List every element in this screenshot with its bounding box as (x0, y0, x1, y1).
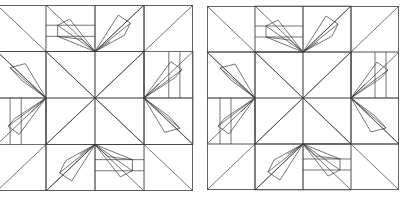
pinwheel-center-star (46, 52, 144, 145)
figure-root (0, 0, 413, 204)
pinwheel-center-star (255, 52, 351, 144)
panel-right (207, 5, 399, 191)
panel-right-drawing (207, 5, 399, 191)
panel-left (0, 5, 194, 191)
panel-left-drawing (0, 5, 194, 191)
